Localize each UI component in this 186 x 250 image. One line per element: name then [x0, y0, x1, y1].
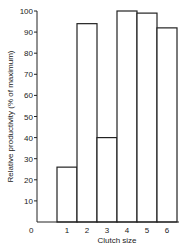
y-tick-label: 100	[20, 7, 34, 16]
y-tick-label: 50	[24, 113, 33, 122]
bar-clutch-4	[117, 11, 137, 222]
y-tick-label: 60	[24, 91, 33, 100]
x-tick-label: 6	[165, 226, 170, 235]
y-tick-label: 80	[24, 49, 33, 58]
y-tick-label: 90	[24, 28, 33, 37]
y-tick-label: 40	[24, 134, 33, 143]
bar-clutch-6	[157, 28, 177, 222]
bar-clutch-1	[57, 167, 77, 222]
x-tick-label: 3	[105, 226, 110, 235]
x-axis-label: Clutch size	[97, 236, 137, 245]
x-tick-label: 1	[65, 226, 70, 235]
y-tick-label: 30	[24, 155, 33, 164]
x-tick-label: 4	[125, 226, 130, 235]
x-tick-label: 2	[85, 226, 90, 235]
y-axis-label: Relative productivity (% of maximum)	[6, 50, 15, 182]
bar-chart: 102030405060708090100 123456 0 Clutch si…	[0, 0, 186, 250]
bar-clutch-3	[97, 138, 117, 222]
y-tick-label: 10	[24, 197, 33, 206]
y-tick-label: 20	[24, 176, 33, 185]
y-tick-label: 70	[24, 70, 33, 79]
x-tick-label: 5	[145, 226, 150, 235]
origin-label: 0	[29, 226, 34, 235]
bar-clutch-5	[137, 13, 157, 222]
bar-clutch-2	[77, 24, 97, 222]
